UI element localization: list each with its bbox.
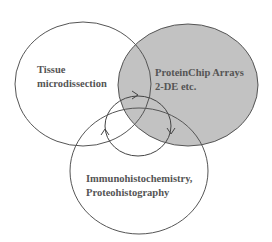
label-proteinchip: ProteinChip Arrays 2-DE etc. bbox=[155, 66, 244, 94]
venn-diagram bbox=[0, 0, 272, 242]
label-tissue-line2: microdissection bbox=[37, 77, 107, 91]
label-tissue-line1: Tissue bbox=[37, 63, 107, 77]
label-immuno-line2: Proteohistography bbox=[86, 186, 192, 200]
label-proteinchip-line1: ProteinChip Arrays bbox=[155, 66, 244, 80]
label-immuno: Immunohistochemistry, Proteohistography bbox=[86, 172, 192, 200]
label-proteinchip-line2: 2-DE etc. bbox=[155, 80, 244, 94]
arrow-head-left-icon bbox=[101, 129, 109, 135]
label-immuno-line1: Immunohistochemistry, bbox=[86, 172, 192, 186]
label-tissue: Tissue microdissection bbox=[37, 63, 107, 91]
